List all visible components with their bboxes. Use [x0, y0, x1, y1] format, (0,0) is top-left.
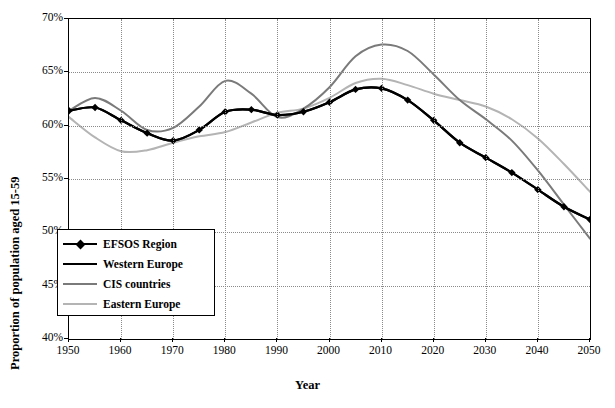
x-tick-label: 1970	[152, 345, 192, 357]
y-tick-mark	[64, 71, 68, 72]
diamond-marker-icon	[352, 86, 359, 93]
x-tick-label: 2000	[309, 345, 349, 357]
legend-label-western-europe: Western Europe	[103, 258, 183, 270]
legend-swatch-efsos-region	[63, 238, 97, 250]
gridline-vertical	[225, 19, 226, 339]
y-tick-label: 70%	[23, 12, 63, 24]
x-tick-mark	[120, 338, 121, 342]
y-tick-label: 65%	[23, 65, 63, 77]
legend-item-eastern-europe: Eastern Europe	[63, 294, 209, 314]
y-tick-label: 55%	[23, 172, 63, 184]
legend-item-western-europe: Western Europe	[63, 254, 209, 274]
diamond-marker-icon	[91, 104, 98, 111]
y-tick-mark	[64, 125, 68, 126]
x-tick-mark	[68, 338, 69, 342]
y-tick-mark	[64, 178, 68, 179]
legend-label-eastern-europe: Eastern Europe	[103, 298, 180, 310]
chart-container: 40%45%50%55%60%65%70%1950196019701980199…	[0, 0, 615, 408]
x-tick-label: 2010	[361, 345, 401, 357]
gridline-vertical	[277, 19, 278, 339]
x-tick-mark	[224, 338, 225, 342]
x-tick-mark	[537, 338, 538, 342]
x-tick-label: 1980	[204, 345, 244, 357]
gridline-vertical	[538, 19, 539, 339]
gridline-vertical	[382, 19, 383, 339]
x-tick-label: 2020	[413, 345, 453, 357]
y-tick-mark	[64, 18, 68, 19]
y-tick-label: 40%	[23, 332, 63, 344]
legend-label-efsos-region: EFSOS Region	[103, 238, 177, 250]
x-axis-label: Year	[0, 378, 615, 393]
legend: EFSOS Region Western Europe CIS countrie…	[57, 229, 215, 316]
y-tick-label: 60%	[23, 119, 63, 131]
diamond-marker-icon	[76, 239, 86, 249]
gridline-vertical	[486, 19, 487, 339]
x-tick-mark	[433, 338, 434, 342]
x-tick-label: 2050	[569, 345, 609, 357]
legend-item-efsos-region: EFSOS Region	[63, 234, 209, 254]
x-tick-label: 2040	[517, 345, 557, 357]
x-tick-label: 1990	[256, 345, 296, 357]
x-tick-label: 2030	[465, 345, 505, 357]
legend-swatch-eastern-europe	[63, 298, 97, 310]
legend-label-cis-countries: CIS countries	[103, 278, 170, 290]
y-axis-label-wrap: Proportion of population aged 15-59	[10, 330, 11, 331]
x-tick-label: 1960	[100, 345, 140, 357]
legend-swatch-cis-countries	[63, 278, 97, 290]
legend-item-cis-countries: CIS countries	[63, 274, 209, 294]
x-tick-mark	[329, 338, 330, 342]
legend-swatch-western-europe	[63, 258, 97, 270]
x-tick-mark	[172, 338, 173, 342]
x-tick-mark	[276, 338, 277, 342]
x-tick-label: 1950	[48, 345, 88, 357]
x-tick-mark	[589, 338, 590, 342]
x-tick-mark	[381, 338, 382, 342]
x-tick-mark	[485, 338, 486, 342]
y-axis-label: Proportion of population aged 15-59	[8, 70, 23, 370]
diamond-marker-icon	[248, 106, 255, 113]
gridline-vertical	[330, 19, 331, 339]
gridline-vertical	[434, 19, 435, 339]
